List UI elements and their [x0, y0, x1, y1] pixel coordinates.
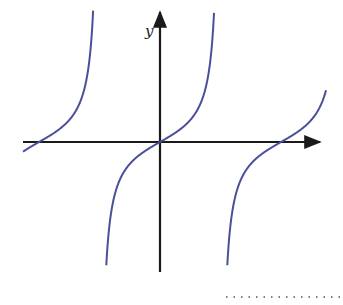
function-graph: y — [0, 0, 343, 305]
curve-branch — [23, 11, 93, 152]
curve-branch — [227, 90, 326, 265]
curve-branches — [23, 11, 326, 266]
y-axis-label: y — [144, 22, 154, 40]
